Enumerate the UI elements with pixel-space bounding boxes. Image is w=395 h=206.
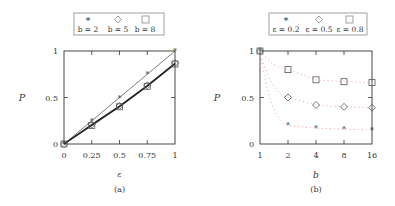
legend-label-eps02: ε = 0.2 [273,25,300,34]
x-tick-label: 1 [257,151,262,160]
y-tick-label: 0 [53,140,58,149]
legend-label-b5: b = 5 [108,25,129,34]
x-tick-label: 16 [367,151,377,160]
y-tick-label: 0.5 [45,94,58,103]
chart-panel-a: * b = 2 b = 5 b = 8 0 0.25 0.5 0.75 1 0 … [0,0,200,206]
svg-text:*: * [286,121,290,130]
y-axis-label-a: P [18,92,26,103]
series-markers-eps02: ***** [258,47,374,135]
legend-label-b2: b = 2 [78,25,99,34]
y-tick-label: 0 [249,140,254,149]
x-tick-label: 0 [61,151,66,160]
x-tick-label: 1 [172,151,177,160]
x-tick-label: 4 [313,151,318,160]
panel-caption-b: (b) [310,185,321,194]
chart-panel-b: * ε = 0.2 ε = 0.5 ε = 0.8 1 2 4 8 16 0 0… [200,0,395,206]
x-tick-label: 0.5 [113,151,126,160]
x-tick-label: 2 [285,151,290,160]
panel-caption-a: (a) [114,185,125,194]
svg-text:*: * [370,126,374,135]
series-line-eps02 [260,51,372,130]
x-axis-label-b: b [313,170,319,180]
y-tick-label: 1 [249,47,254,56]
series-lines-dotted [260,51,372,130]
svg-text:*: * [118,94,122,103]
legend-label-eps05: ε = 0.5 [306,25,333,34]
legend-label-eps08: ε = 0.8 [337,25,364,34]
y-axis-label-b: P [213,92,221,103]
legend-label-b8: b = 8 [135,25,156,34]
svg-text:*: * [173,47,177,56]
svg-text:*: * [342,125,346,134]
series-line-eps08 [260,51,372,83]
y-tick-label: 1 [53,47,58,56]
svg-text:*: * [145,70,149,79]
x-axis-label-a: ε [117,170,121,179]
x-tick-label: 8 [341,151,346,160]
svg-text:*: * [314,124,318,133]
y-tick-label: 0.5 [241,94,254,103]
x-tick-label: 0.25 [83,151,101,160]
x-tick-label: 0.75 [138,151,156,160]
